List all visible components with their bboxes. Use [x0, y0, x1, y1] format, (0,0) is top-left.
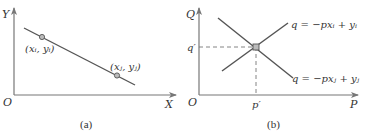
q-prime-label: q′ — [187, 42, 196, 53]
point-i-marker — [39, 34, 44, 39]
origin-label-a: O — [3, 96, 12, 109]
y-axis-label-a: Y — [2, 8, 11, 21]
caption-a: (a) — [80, 118, 93, 131]
equation-line-i: q = −pxᵢ + yᵢ — [291, 19, 357, 30]
figure-canvas: Y O X (xᵢ, yᵢ) (xⱼ, yⱼ) (a) Q O P q′ p′ … — [0, 0, 366, 138]
p-axis-label: P — [349, 98, 358, 111]
x-axis-label-a: X — [164, 98, 174, 111]
caption-b: (b) — [267, 118, 280, 131]
equation-line-j: q = −pxⱼ + yⱼ — [292, 73, 360, 84]
point-i-label: (xᵢ, yᵢ) — [25, 43, 55, 54]
origin-label-b: O — [188, 96, 197, 109]
point-j-marker — [114, 73, 119, 78]
point-j-label: (xⱼ, yⱼ) — [110, 61, 141, 72]
q-axis-label: Q — [186, 8, 195, 21]
panel-b: Q O P q′ p′ q = −pxᵢ + yᵢ q = −pxⱼ + yⱼ … — [186, 8, 360, 131]
p-prime-label: p′ — [252, 99, 261, 110]
intersection-marker — [253, 44, 259, 50]
panel-a: Y O X (xᵢ, yᵢ) (xⱼ, yⱼ) (a) — [2, 8, 176, 131]
